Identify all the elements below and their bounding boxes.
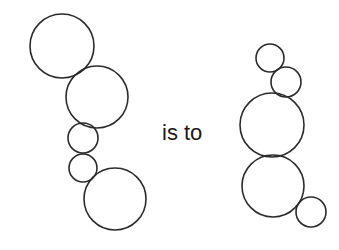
right-circle-5 bbox=[296, 197, 326, 227]
left-circle-5 bbox=[84, 168, 146, 230]
right-circle-chain bbox=[240, 44, 326, 227]
left-circle-3 bbox=[68, 123, 98, 153]
right-circle-3 bbox=[240, 93, 304, 157]
left-circle-chain bbox=[30, 14, 146, 230]
analogy-diagram: is to bbox=[0, 0, 339, 250]
relation-label: is to bbox=[162, 122, 202, 144]
right-circle-4 bbox=[242, 155, 304, 217]
left-circle-2 bbox=[66, 66, 128, 128]
